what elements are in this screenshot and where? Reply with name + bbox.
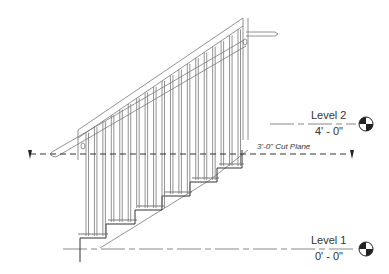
balusters — [86, 29, 241, 236]
cut-plane-line[interactable] — [28, 150, 354, 159]
level-1-head-icon[interactable] — [359, 242, 373, 256]
level-2-elevation[interactable]: 4' - 0" — [315, 126, 343, 137]
level-1-name[interactable]: Level 1 — [311, 235, 346, 246]
level-2-name[interactable]: Level 2 — [311, 110, 346, 121]
level-1-elevation[interactable]: 0' - 0" — [315, 251, 343, 262]
drawing-canvas: Level 2 4' - 0" Level 1 0' - 0" 3'-0" Cu… — [0, 0, 389, 274]
cut-plane-label: 3'-0" Cut Plane — [257, 142, 310, 151]
level-2-head-icon[interactable] — [359, 117, 373, 131]
